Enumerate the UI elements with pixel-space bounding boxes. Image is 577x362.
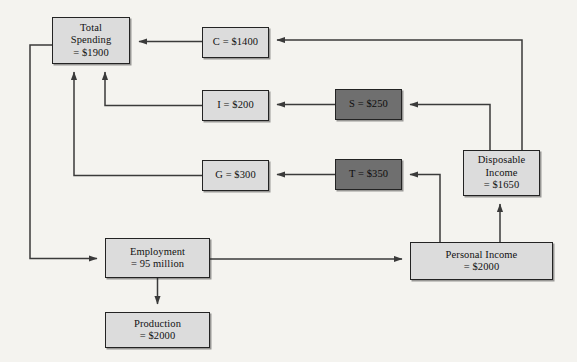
node-disposable-income-line2: Income [476,167,528,179]
diagram-canvas: Total Spending = $1900 C = $1400 I = $20… [0,0,577,362]
node-production-line1: Production [132,318,183,330]
node-investment-label: I = $200 [215,99,255,111]
node-personal-income-line2: = $2000 [444,261,520,273]
node-taxes[interactable]: T = $350 [335,159,402,190]
node-total-spending[interactable]: Total Spending = $1900 [52,17,130,64]
node-production-line2: = $2000 [132,330,183,342]
edge-investment-to-total-spending [105,72,202,106]
edge-government-to-total-spending [74,72,202,176]
node-taxes-label: T = $350 [347,168,390,180]
node-employment[interactable]: Employment = 95 million [105,238,210,278]
node-saving[interactable]: S = $250 [335,89,402,120]
node-disposable-income-line1: Disposable [476,154,528,166]
node-total-spending-line2: Spending [69,34,113,46]
node-personal-income-line1: Personal Income [444,249,520,261]
node-personal-income[interactable]: Personal Income = $2000 [410,242,553,280]
node-production[interactable]: Production = $2000 [105,312,210,348]
node-government[interactable]: G = $300 [202,160,269,191]
node-disposable-income[interactable]: Disposable Income = $1650 [463,150,540,196]
edge-total-spending-to-employment [30,45,97,259]
node-employment-line2: = 95 million [128,258,187,270]
node-government-label: G = $300 [213,169,258,181]
node-employment-line1: Employment [128,246,187,258]
node-consumption-label: C = $1400 [211,36,260,48]
node-total-spending-line1: Total [69,22,113,34]
node-investment[interactable]: I = $200 [202,90,269,121]
edge-personal-income-to-taxes [410,175,440,243]
node-disposable-income-line3: = $1650 [476,179,528,191]
node-consumption[interactable]: C = $1400 [202,27,269,58]
edge-disposable-income-to-saving [410,105,490,151]
node-saving-label: S = $250 [347,98,390,110]
node-total-spending-line3: = $1900 [69,47,113,59]
